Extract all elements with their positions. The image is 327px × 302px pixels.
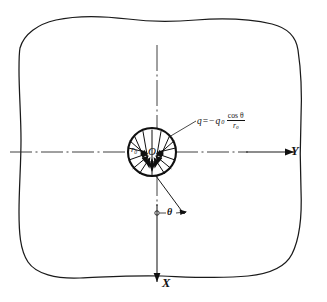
equation-denominator: r0 (232, 121, 239, 130)
load-equation: q=−q0 cos θ r0 (197, 112, 245, 130)
hole-radius-subscript: 0 (134, 149, 137, 155)
equation-amplitude: q (215, 116, 220, 126)
y-axis-label: Y (291, 145, 299, 158)
figure-canvas: Y X O r0 θ q=−q0 cos θ r0 (0, 0, 327, 302)
equation-equals: = (203, 116, 208, 126)
equation-fraction: cos θ r0 (227, 112, 245, 130)
hole-radius-label: r0 (131, 145, 137, 155)
equation-lhs: q (197, 116, 202, 126)
x-axis-arrowhead (154, 273, 161, 282)
x-axis-label: X (162, 277, 170, 290)
equation-amplitude-subscript: 0 (221, 118, 224, 125)
equation-numerator: cos θ (227, 112, 245, 120)
diagram-svg (0, 0, 327, 302)
equation-leader-line (169, 121, 196, 137)
origin-label: O (148, 146, 156, 157)
equation-sign: − (209, 116, 214, 126)
theta-label: θ (167, 207, 172, 217)
